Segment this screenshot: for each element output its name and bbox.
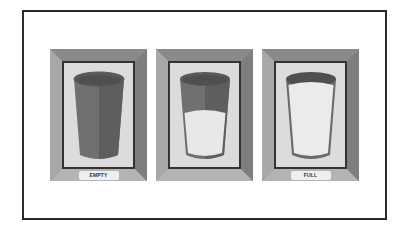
half-full-glass-icon bbox=[176, 69, 234, 163]
empty-glass-icon bbox=[70, 69, 128, 163]
panel-full-glass: FULL bbox=[262, 49, 359, 181]
panel-half-glass bbox=[156, 49, 253, 181]
frame-bevel bbox=[134, 49, 147, 181]
picture-area bbox=[274, 61, 347, 169]
panel-label: FULL bbox=[291, 171, 331, 180]
full-glass-icon bbox=[282, 69, 340, 163]
frame-bevel bbox=[346, 49, 359, 181]
panel-label bbox=[185, 171, 225, 180]
panel-empty-glass: EMPTY bbox=[50, 49, 147, 181]
picture-area bbox=[168, 61, 241, 169]
picture-area bbox=[62, 61, 135, 169]
frame-bevel bbox=[240, 49, 253, 181]
panel-label: EMPTY bbox=[79, 171, 119, 180]
